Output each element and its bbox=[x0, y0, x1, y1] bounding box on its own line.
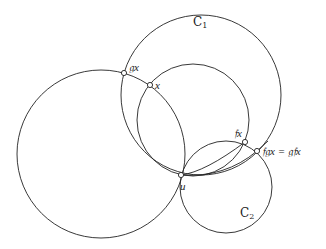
label-x: x bbox=[155, 80, 160, 91]
diagram-canvas: C1 C2 𝔤x x 𝔣x 𝔣𝔤x = 𝔤𝔣x u bbox=[0, 0, 326, 249]
label-fx: 𝔣x bbox=[234, 128, 242, 139]
arc-u-fgx bbox=[181, 141, 268, 175]
label-fgx: 𝔣𝔤x = 𝔤𝔣x bbox=[262, 146, 301, 157]
point-fgx bbox=[254, 148, 259, 153]
point-fx bbox=[242, 139, 247, 144]
label-c1: C1 bbox=[193, 16, 207, 30]
label-gx: 𝔤x bbox=[129, 62, 139, 73]
point-gx bbox=[121, 70, 126, 75]
point-u bbox=[178, 172, 183, 177]
point-x bbox=[147, 82, 152, 87]
left-circle bbox=[17, 70, 185, 238]
label-c2: C2 bbox=[240, 207, 254, 221]
circles-diagram bbox=[0, 0, 326, 249]
arc-u-fx bbox=[181, 142, 245, 175]
label-u: u bbox=[180, 181, 186, 192]
